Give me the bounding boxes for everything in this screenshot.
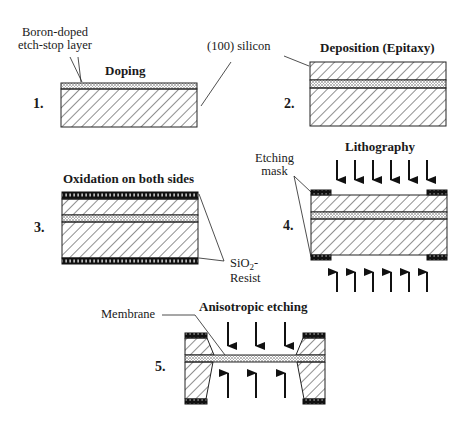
step-5-arrows-down — [228, 322, 285, 346]
step-2-title: Deposition (Epitaxy) — [320, 41, 434, 55]
sio2-leader-line-1 — [199, 194, 224, 261]
step-3-wafer — [62, 192, 198, 264]
etching-mask-line2: mask — [255, 165, 294, 178]
process-diagram — [0, 0, 471, 433]
sio2-prefix: SiO — [230, 256, 249, 270]
membrane-label: Membrane — [101, 308, 155, 321]
step-4-arrows-up — [337, 272, 427, 292]
silicon-label: (100) silicon — [207, 40, 271, 53]
step-4-title: Lithography — [345, 140, 415, 154]
step-2-number: 2. — [284, 97, 295, 112]
mask-leader-line-2 — [294, 176, 311, 257]
step-1-number: 1. — [33, 97, 44, 112]
boron-leader-line — [70, 57, 82, 82]
etching-mask-label: Etching mask — [255, 152, 294, 178]
step-4-wafer — [311, 190, 447, 260]
silicon-leader-line-1 — [201, 62, 231, 106]
boron-label-line2: etch-stop layer — [18, 39, 92, 52]
sio2-resist-label: SiO2- Resist — [230, 257, 261, 286]
step-1-title: Doping — [105, 64, 145, 78]
step-3-number: 3. — [34, 221, 45, 236]
step-2-wafer — [310, 62, 446, 126]
step-5-number: 5. — [155, 360, 166, 375]
silicon-leader-line-2 — [284, 56, 309, 66]
sio2-suffix: - — [254, 256, 258, 270]
step-4-arrows-down — [337, 160, 427, 180]
step-4-number: 4. — [283, 219, 294, 234]
step-3-title: Oxidation on both sides — [63, 172, 194, 186]
sio2-text: SiO2- — [230, 257, 261, 272]
step-5-title: Anisotropic etching — [199, 300, 307, 314]
resist-text: Resist — [230, 272, 261, 285]
step-5-arrows-up — [228, 373, 285, 398]
boron-label: Boron-doped etch-stop layer — [18, 26, 92, 52]
sio2-leader-line-2 — [199, 258, 224, 261]
